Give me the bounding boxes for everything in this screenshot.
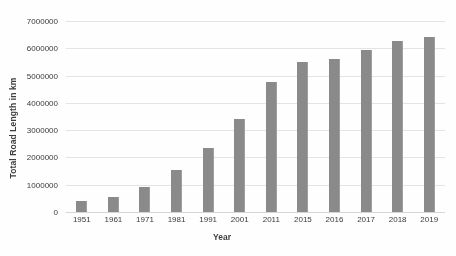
x-axis-tick-label: 1971 [136, 215, 154, 224]
bar [297, 62, 308, 212]
y-axis-tick-label: 1000000 [27, 180, 58, 189]
bar [171, 170, 182, 212]
bar [108, 197, 119, 212]
bar-slot [413, 21, 445, 212]
x-axis-tick-label: 2011 [263, 215, 280, 224]
x-axis-title-text: Year [213, 232, 231, 242]
y-axis-tick-label: 5000000 [27, 71, 58, 80]
bar [234, 119, 245, 212]
y-axis-tick-label: 3000000 [27, 126, 58, 135]
bar [361, 50, 372, 212]
y-axis-tick-label: 6000000 [27, 44, 58, 53]
bar-slot [382, 21, 414, 212]
x-axis-tick-label: 2017 [357, 215, 375, 224]
bar [76, 201, 87, 212]
bar-slot [98, 21, 130, 212]
bar [392, 41, 403, 212]
bar-slot [161, 21, 193, 212]
x-axis-tick-label: 1991 [199, 215, 217, 224]
x-axis-title: Year [0, 232, 456, 242]
bar [203, 148, 214, 212]
bar-slot [350, 21, 382, 212]
x-axis-tick-label: 2019 [420, 215, 438, 224]
x-axis-tick-label: 2001 [231, 215, 249, 224]
bar-slot [66, 21, 98, 212]
bar-slot [319, 21, 351, 212]
bar [424, 37, 435, 212]
y-axis-tick-label: 4000000 [27, 98, 58, 107]
bar-chart: Total Road Length in km 7000000600000050… [0, 0, 456, 256]
bar [329, 59, 340, 212]
x-axis-tick-label: 2016 [326, 215, 344, 224]
bar-slot [192, 21, 224, 212]
x-axis-tick-label: 2015 [294, 215, 312, 224]
bar-slot [129, 21, 161, 212]
x-axis-tick-labels: 1951196119711981199120012011201520162017… [66, 215, 445, 229]
gridline [66, 212, 445, 213]
y-axis-tick-label: 2000000 [27, 153, 58, 162]
bar [139, 187, 150, 212]
x-axis-tick-label: 1951 [73, 215, 91, 224]
bar [266, 82, 277, 212]
plot-area [66, 21, 445, 212]
y-axis-tick-label: 0 [54, 208, 58, 217]
x-axis-tick-label: 2018 [389, 215, 407, 224]
x-axis-tick-label: 1961 [104, 215, 122, 224]
bar-slot [256, 21, 288, 212]
y-axis-tick-label: 7000000 [27, 17, 58, 26]
x-axis-tick-label: 1981 [168, 215, 186, 224]
bar-series [66, 21, 445, 212]
bar-slot [287, 21, 319, 212]
y-axis-tick-labels: 7000000600000050000004000000300000020000… [0, 21, 62, 212]
bar-slot [224, 21, 256, 212]
